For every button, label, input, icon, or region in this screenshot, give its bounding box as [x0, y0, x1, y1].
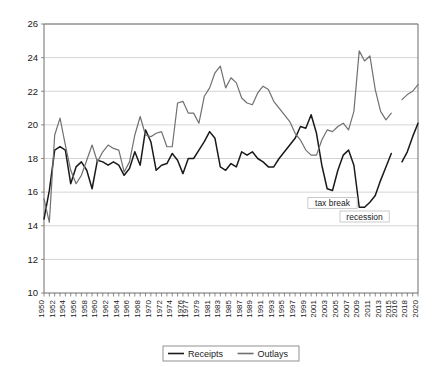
x-tick-label: 2011	[363, 299, 372, 317]
budget-line-chart: 101214161820222426 195019521954195619581…	[0, 0, 432, 367]
x-tick-label: 2003	[320, 299, 329, 317]
x-tick-label: 1995	[277, 299, 286, 317]
chart-legend: ReceiptsOutlays	[163, 346, 299, 361]
x-tick-label: 1993	[267, 299, 276, 317]
annotations: tax breakrecession	[308, 198, 389, 222]
x-tick-label: 1985	[224, 299, 233, 317]
series-line-outlays	[402, 85, 418, 100]
annotation-label: recession	[346, 212, 383, 222]
annotation-label: tax break	[315, 198, 351, 208]
x-tick-label: 1956	[69, 299, 78, 317]
legend-label-outlays: Outlays	[258, 349, 289, 359]
x-tick-label: 1966	[122, 299, 131, 317]
x-tick-label: 1999	[299, 299, 308, 317]
x-tick-label: 2018	[400, 299, 409, 317]
x-tick-label: 1989	[245, 299, 254, 317]
x-tick-label: 2009	[352, 299, 361, 317]
x-tick-label: 1962	[101, 299, 110, 317]
y-tick-label: 18	[27, 153, 38, 164]
chart-container: 101214161820222426 195019521954195619581…	[0, 0, 432, 367]
series-line-receipts	[402, 123, 418, 162]
x-tick-label: 1987	[235, 299, 244, 317]
y-tick-label: 12	[27, 254, 38, 265]
y-tick-label: 22	[27, 86, 38, 97]
x-tick-label: 1960	[90, 299, 99, 317]
x-tick-label: 2013	[374, 299, 383, 317]
x-tick-label: 1981	[203, 299, 212, 317]
x-tick-label: 1954	[58, 299, 67, 317]
x-tick-label: 1983	[213, 299, 222, 317]
x-tick-label: 1952	[48, 299, 57, 317]
y-tick-label: 24	[27, 52, 38, 63]
x-tick-label: 1974	[165, 299, 174, 317]
x-tick-label: 1997	[288, 299, 297, 317]
x-tick-label: 2016	[390, 299, 399, 317]
x-tick-label: 2005	[331, 299, 340, 317]
x-tick-label: 1972	[155, 299, 164, 317]
x-tick-label: 1979	[192, 299, 201, 317]
x-tick-label: 1970	[144, 299, 153, 317]
x-tick-label: 2020	[411, 299, 420, 317]
x-tick-label: 1964	[112, 299, 121, 317]
x-tick-label: 1977	[181, 299, 190, 317]
x-tick-label: 1968	[133, 299, 142, 317]
y-tick-label: 20	[27, 119, 38, 130]
y-tick-label: 10	[27, 287, 38, 298]
series-line-outlays	[44, 51, 391, 222]
x-axis: 1950195219541956195819601962196419661968…	[37, 293, 420, 318]
data-series	[44, 51, 418, 222]
y-axis: 101214161820222426	[27, 18, 44, 298]
gridlines	[44, 24, 418, 293]
y-tick-label: 16	[27, 186, 38, 197]
y-tick-label: 14	[27, 220, 38, 231]
x-tick-label: 1950	[37, 299, 46, 317]
y-tick-label: 26	[27, 18, 38, 29]
x-tick-label: 1958	[80, 299, 89, 317]
legend-label-receipts: Receipts	[188, 349, 224, 359]
x-tick-label: 1991	[256, 299, 265, 317]
x-tick-label: 2001	[309, 299, 318, 317]
x-tick-label: 2007	[342, 299, 351, 317]
